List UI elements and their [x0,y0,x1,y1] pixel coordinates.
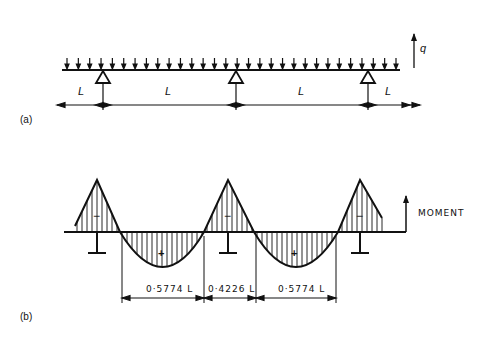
part-a-label: (a) [20,114,32,125]
beam-diagram: q L L L L (a) MOMENT [0,0,486,353]
span-dimension-line [57,103,420,108]
load-q-arrow: q [414,34,427,68]
loaded-beam: q L L L L [57,34,427,110]
sign-positive-1: + [158,247,164,259]
sign-negative-left: − [93,209,100,223]
span-label-overhang-left: L [78,85,84,97]
sign-negative-middle: − [224,209,231,223]
zero-moment-dimension-line [122,296,336,301]
dimension-label-3: 0·5774 L [278,284,325,294]
dimension-label-2: 0·4226 L [208,284,255,294]
moment-diagram: MOMENT − − − + + 0·5774 L 0·4226 L 0·5 [64,180,465,303]
span-label-2: L [298,85,304,97]
sign-positive-2: + [291,247,297,259]
distributed-load-arrows [65,58,398,69]
dimension-label-1: 0·5774 L [146,284,193,294]
part-b-label: (b) [20,311,32,322]
sign-negative-right: − [356,209,363,223]
span-label-1: L [165,85,171,97]
load-q-label: q [420,42,427,54]
span-label-overhang-right: L [385,85,391,97]
moment-axis-label: MOMENT [418,208,465,218]
